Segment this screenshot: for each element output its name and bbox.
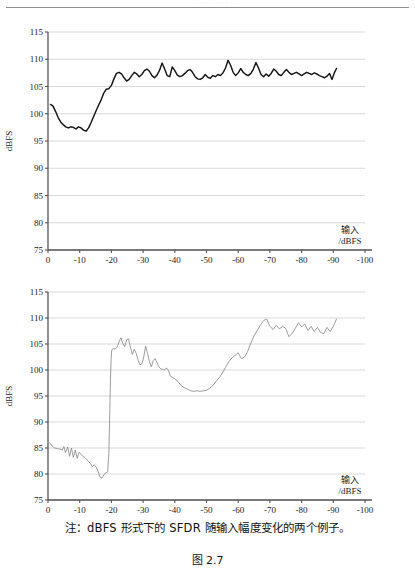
figure-number-label: 图 2.7 [0,551,415,567]
y-axis-title: dBFS [4,386,14,407]
y-tick-label-105: 105 [30,339,44,349]
y-tick-label-90: 90 [34,417,44,427]
y-axis-title: dBFS [4,131,14,152]
x-tick-label--10: -10 [74,505,86,515]
x-tick-label--80: -80 [296,255,308,265]
x-tick-label--20: -20 [105,255,117,265]
x-tick-label--70: -70 [264,505,276,515]
x-tick-label--50: -50 [201,255,213,265]
x-tick-label--100: -100 [357,505,374,515]
figure-caption-note: 注：dBFS 形式下的 SFDR 随输入幅度变化的两个例子。 [0,519,415,535]
x-tick-label--60: -60 [232,505,244,515]
y-tick-label-115: 115 [30,27,44,37]
figure-page: · · · · · · · · 75808590951001051101150-… [0,0,415,581]
x-tick-label--90: -90 [327,505,339,515]
y-tick-label-75: 75 [34,495,44,505]
gridlines [48,292,365,500]
data-line-bottom-0 [50,319,337,478]
y-tick-label-75: 75 [34,245,44,255]
y-tick-label-110: 110 [30,313,44,323]
x-tick-label--90: -90 [327,255,339,265]
gridlines [48,32,365,250]
y-tick-label-100: 100 [30,365,44,375]
y-tick-group: 7580859095100105110115 [30,27,49,255]
y-tick-label-110: 110 [30,54,44,64]
x-tick-group: 0-10-20-30-40-50-60-70-80-90-100 [46,500,374,515]
chart-sfdr-example-2: 75808590951001051101150-10-20-30-40-50-6… [0,283,415,515]
x-tick-group: 0-10-20-30-40-50-60-70-80-90-100 [46,250,374,265]
y-tick-label-95: 95 [34,136,44,146]
y-tick-group: 7580859095100105110115 [30,287,49,505]
chart-sfdr-example-1: 75808590951001051101150-10-20-30-40-50-6… [0,18,415,273]
y-tick-label-115: 115 [30,287,44,297]
y-tick-label-80: 80 [34,469,44,479]
running-header-text: · · · · · · · · [140,0,290,7]
data-line-top-0 [51,60,337,131]
x-tick-label--30: -30 [137,255,149,265]
header-rule [6,7,409,8]
y-tick-label-80: 80 [34,218,44,228]
x-tick-label--70: -70 [264,255,276,265]
y-tick-label-90: 90 [34,163,44,173]
x-tick-label--40: -40 [169,505,181,515]
x-tick-label--60: -60 [232,255,244,265]
chart-svg-top: 75808590951001051101150-10-20-30-40-50-6… [0,18,415,273]
x-axis-title-line-2: /dBFS [338,236,361,246]
y-tick-label-95: 95 [34,391,44,401]
y-tick-label-85: 85 [34,443,44,453]
y-tick-label-105: 105 [30,82,44,92]
y-tick-label-85: 85 [34,191,44,201]
x-tick-label--50: -50 [201,505,213,515]
x-axis-title-group: 输入/dBFS [338,224,361,246]
x-tick-label--10: -10 [74,255,86,265]
x-tick-label--30: -30 [137,505,149,515]
chart-svg-bottom: 75808590951001051101150-10-20-30-40-50-6… [0,283,415,515]
y-tick-label-100: 100 [30,109,44,119]
x-axis-title-line-1: 输入 [341,474,359,485]
x-tick-label--80: -80 [296,505,308,515]
x-tick-label--20: -20 [105,505,117,515]
x-tick-label-0: 0 [46,505,51,515]
x-tick-label--100: -100 [357,255,374,265]
x-axis-title-group: 输入/dBFS [338,474,361,496]
x-axis-title-line-1: 输入 [341,224,359,235]
x-axis-title-line-2: /dBFS [338,486,361,496]
x-tick-label-0: 0 [46,255,51,265]
x-tick-label--40: -40 [169,255,181,265]
